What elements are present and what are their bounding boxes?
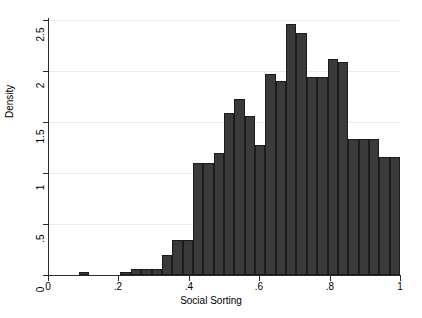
histogram-bar xyxy=(390,157,400,275)
x-axis-line xyxy=(47,275,401,276)
histogram-bar xyxy=(296,33,306,275)
histogram-bar xyxy=(286,24,296,275)
histogram-bar xyxy=(265,74,275,275)
y-tick-label: 1 xyxy=(35,173,46,203)
histogram-bar xyxy=(214,153,224,275)
histogram-bar xyxy=(369,139,379,275)
x-tick-label: 1 xyxy=(385,281,415,292)
histogram-bar xyxy=(224,113,234,275)
histogram-bar xyxy=(328,59,338,275)
x-axis-title: Social Sorting xyxy=(0,295,422,306)
histogram-bar xyxy=(359,139,369,275)
y-tick-label: 2.5 xyxy=(35,20,46,50)
histogram-bar xyxy=(307,77,317,275)
gridline xyxy=(49,20,401,21)
x-tick-label: .8 xyxy=(315,281,345,292)
plot-area: 0.511.522.5 0.2.4.6.81 xyxy=(0,0,422,318)
y-tick-label: .5 xyxy=(35,224,46,254)
x-tick-label: .6 xyxy=(244,281,274,292)
histogram-bar xyxy=(183,240,193,275)
y-tick-label: 2 xyxy=(35,71,46,101)
histogram-bar xyxy=(193,163,203,275)
x-tick-label: 0 xyxy=(33,281,63,292)
histogram-bar xyxy=(338,62,348,275)
histogram-bar xyxy=(245,116,255,275)
x-tick-label: .4 xyxy=(174,281,204,292)
histogram-bar xyxy=(276,81,286,275)
histogram-bar xyxy=(348,139,358,275)
histogram-bar xyxy=(379,157,389,275)
histogram-bar xyxy=(234,99,244,275)
x-tick-label: .2 xyxy=(103,281,133,292)
histogram-bar xyxy=(317,77,327,275)
y-axis-title: Density xyxy=(4,85,15,118)
histogram-bar xyxy=(162,255,172,275)
histogram-bar xyxy=(203,163,213,275)
y-axis-line xyxy=(48,18,49,277)
histogram-bar xyxy=(172,240,182,275)
y-tick-label: 1.5 xyxy=(35,122,46,152)
histogram-bar xyxy=(255,145,265,275)
chart-figure: 0.511.522.5 0.2.4.6.81 Density Social So… xyxy=(0,0,422,318)
